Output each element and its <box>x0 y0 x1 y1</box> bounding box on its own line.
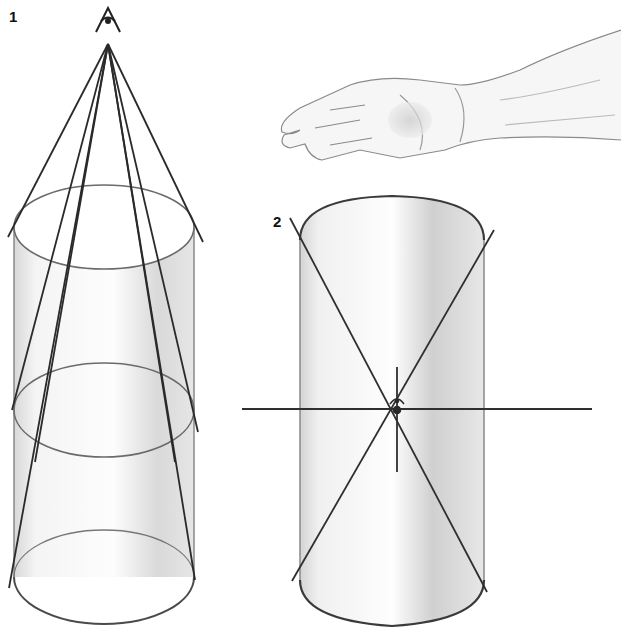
hand-sketch <box>281 30 621 160</box>
drawing-canvas <box>0 0 621 642</box>
eye-icon <box>96 8 120 32</box>
